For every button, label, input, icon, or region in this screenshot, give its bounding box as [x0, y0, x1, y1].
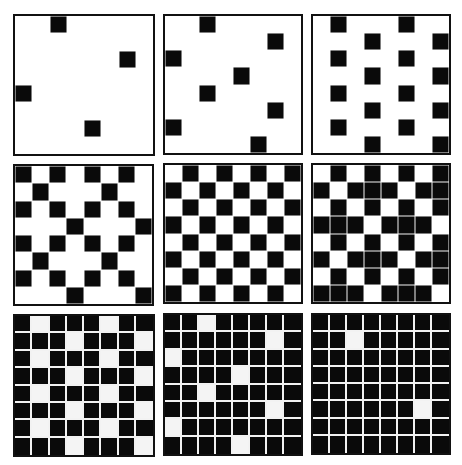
white-cell: [165, 85, 182, 102]
black-cell: [313, 436, 330, 453]
white-cell: [101, 218, 118, 235]
white-cell: [49, 252, 66, 269]
white-cell: [398, 182, 415, 199]
black-cell: [250, 437, 267, 454]
black-cell: [84, 316, 101, 333]
black-cell: [313, 419, 330, 436]
black-cell: [364, 419, 381, 436]
white-cell: [50, 120, 67, 137]
white-cell: [101, 201, 118, 218]
white-cell: [347, 67, 364, 84]
white-cell: [250, 50, 267, 67]
black-cell: [182, 350, 199, 367]
white-cell: [165, 16, 182, 33]
black-cell: [250, 136, 267, 153]
black-cell: [284, 419, 301, 436]
white-cell: [216, 50, 233, 67]
black-cell: [398, 234, 415, 251]
pattern-panel-7: [13, 314, 155, 457]
black-cell: [182, 199, 199, 216]
white-cell: [182, 67, 199, 84]
black-cell: [15, 201, 32, 218]
black-cell: [119, 351, 136, 368]
white-cell: [32, 351, 49, 368]
black-cell: [415, 332, 432, 349]
white-cell: [233, 234, 250, 251]
white-cell: [15, 218, 32, 235]
white-cell: [101, 102, 118, 119]
black-cell: [50, 333, 67, 350]
white-cell: [347, 234, 364, 251]
pattern-panel-6: [311, 163, 451, 304]
black-cell: [284, 367, 301, 384]
black-cell: [233, 350, 250, 367]
white-cell: [284, 67, 301, 84]
black-cell: [381, 350, 398, 367]
white-cell: [267, 50, 284, 67]
white-cell: [136, 33, 153, 50]
white-cell: [381, 136, 398, 153]
white-cell: [216, 119, 233, 136]
white-cell: [15, 16, 32, 33]
white-cell: [415, 268, 432, 285]
white-cell: [182, 102, 199, 119]
white-cell: [49, 218, 66, 235]
black-cell: [50, 368, 67, 385]
white-cell: [165, 102, 182, 119]
black-cell: [330, 234, 347, 251]
black-cell: [284, 350, 301, 367]
white-cell: [398, 67, 415, 84]
white-cell: [381, 16, 398, 33]
black-cell: [381, 251, 398, 268]
black-cell: [15, 420, 32, 437]
white-cell: [432, 85, 449, 102]
black-cell: [432, 67, 449, 84]
white-cell: [250, 33, 267, 50]
white-cell: [136, 102, 153, 119]
black-cell: [330, 419, 347, 436]
white-cell: [284, 119, 301, 136]
white-cell: [267, 234, 284, 251]
black-cell: [49, 201, 66, 218]
white-cell: [381, 33, 398, 50]
black-cell: [415, 251, 432, 268]
white-cell: [284, 33, 301, 50]
black-cell: [165, 216, 182, 233]
black-cell: [313, 216, 330, 233]
white-cell: [165, 67, 182, 84]
black-cell: [313, 251, 330, 268]
white-cell: [135, 235, 152, 252]
black-cell: [364, 102, 381, 119]
black-cell: [330, 16, 347, 33]
white-cell: [165, 136, 182, 153]
white-cell: [381, 199, 398, 216]
black-cell: [165, 182, 182, 199]
black-cell: [199, 402, 216, 419]
black-cell: [267, 216, 284, 233]
black-cell: [415, 384, 432, 401]
black-cell: [84, 333, 101, 350]
white-cell: [50, 33, 67, 50]
black-cell: [84, 386, 101, 403]
white-cell: [267, 85, 284, 102]
black-cell: [398, 199, 415, 216]
white-cell: [313, 165, 330, 182]
black-cell: [330, 285, 347, 302]
white-cell: [15, 137, 32, 154]
white-cell: [250, 102, 267, 119]
black-cell: [330, 85, 347, 102]
white-cell: [32, 316, 49, 333]
black-cell: [250, 268, 267, 285]
white-cell: [50, 68, 67, 85]
black-cell: [15, 316, 32, 333]
black-cell: [284, 234, 301, 251]
white-cell: [165, 33, 182, 50]
white-cell: [32, 235, 49, 252]
black-cell: [347, 182, 364, 199]
white-cell: [233, 16, 250, 33]
white-cell: [415, 102, 432, 119]
black-cell: [398, 401, 415, 418]
white-cell: [313, 85, 330, 102]
black-cell: [101, 438, 118, 455]
white-cell: [216, 102, 233, 119]
